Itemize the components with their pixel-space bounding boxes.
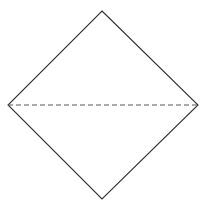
diamond-diagram <box>0 0 205 211</box>
diagram-canvas <box>0 0 205 211</box>
